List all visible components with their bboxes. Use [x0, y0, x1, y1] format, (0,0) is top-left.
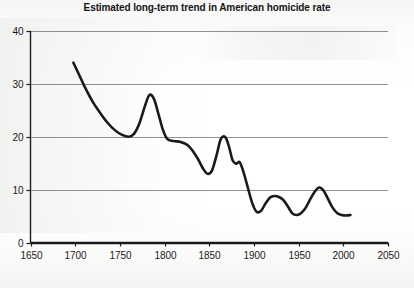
chart-figure: Estimated long-term trend in American ho…: [0, 0, 414, 288]
y-tick-label: 0: [18, 238, 24, 249]
x-tick-label: 1750: [109, 250, 132, 261]
y-tick-labels: 010203040: [12, 26, 24, 249]
data-series-group: [73, 63, 350, 216]
y-tick-label: 40: [12, 26, 24, 37]
x-tick-label: 1700: [64, 250, 87, 261]
x-tick-label: 1900: [243, 250, 266, 261]
line-chart-plot: 010203040 165017001750180018501900195020…: [0, 0, 414, 288]
y-tick-label: 20: [12, 132, 24, 143]
x-tick-label: 1650: [20, 250, 43, 261]
x-tick-labels: 165017001750180018501900195020002050: [20, 250, 400, 261]
y-tick-label: 30: [12, 79, 24, 90]
x-tick-label: 1950: [288, 250, 311, 261]
x-tick-label: 2000: [332, 250, 355, 261]
y-tick-label: 10: [12, 185, 24, 196]
x-tick-label: 1800: [154, 250, 177, 261]
x-tick-label: 1850: [198, 250, 221, 261]
series-line: [73, 63, 350, 216]
x-tick-label: 2050: [377, 250, 400, 261]
